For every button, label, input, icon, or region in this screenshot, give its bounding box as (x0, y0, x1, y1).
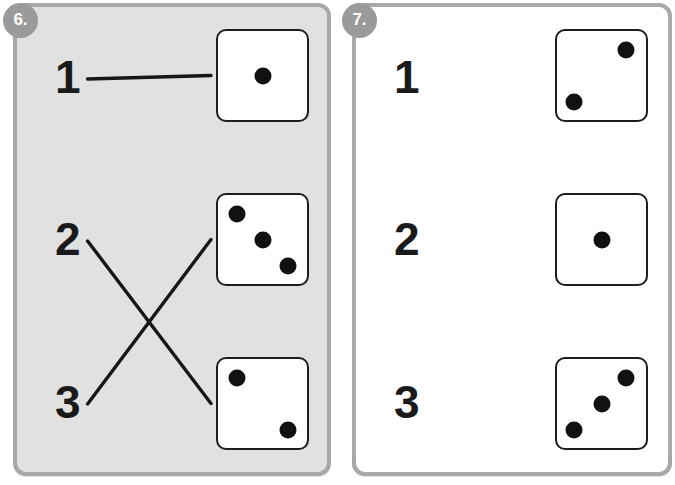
die-3[interactable] (555, 357, 648, 450)
worksheet-page: 6. 1 2 3 7. 1 2 3 (0, 0, 675, 485)
match-number-1[interactable]: 1 (55, 54, 81, 100)
die-pip (618, 41, 635, 58)
exercise-panel-6: 6. 1 2 3 (13, 3, 331, 476)
match-number-2[interactable]: 2 (394, 216, 420, 262)
die-pip (565, 94, 582, 111)
die-2[interactable] (555, 193, 648, 286)
match-number-2[interactable]: 2 (55, 216, 81, 262)
die-pip (593, 395, 610, 412)
die-pip (228, 205, 245, 222)
match-line (88, 241, 211, 404)
match-number-1[interactable]: 1 (394, 54, 420, 100)
die-pip (254, 231, 271, 248)
match-line (88, 240, 211, 405)
die-pip (618, 369, 635, 386)
exercise-number-badge: 7. (342, 3, 377, 38)
die-pip (593, 231, 610, 248)
exercise-panel-7: 7. 1 2 3 (352, 3, 672, 476)
die-pip (565, 422, 582, 439)
match-line (88, 76, 211, 80)
exercise-number-badge: 6. (3, 3, 38, 38)
die-pip (254, 67, 271, 84)
die-1[interactable] (216, 29, 309, 122)
die-pip (280, 258, 297, 275)
die-pip (228, 369, 245, 386)
match-number-3[interactable]: 3 (394, 379, 420, 425)
die-1[interactable] (555, 29, 648, 122)
die-2[interactable] (216, 193, 309, 286)
match-number-3[interactable]: 3 (55, 379, 81, 425)
die-pip (280, 422, 297, 439)
die-3[interactable] (216, 357, 309, 450)
